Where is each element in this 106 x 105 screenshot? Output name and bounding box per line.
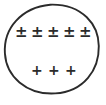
hand-drawn-circle-icon	[5, 5, 99, 94]
circle-outline-svg	[0, 0, 106, 105]
figure-canvas: ± ± ± ± ± + + +	[0, 0, 106, 105]
